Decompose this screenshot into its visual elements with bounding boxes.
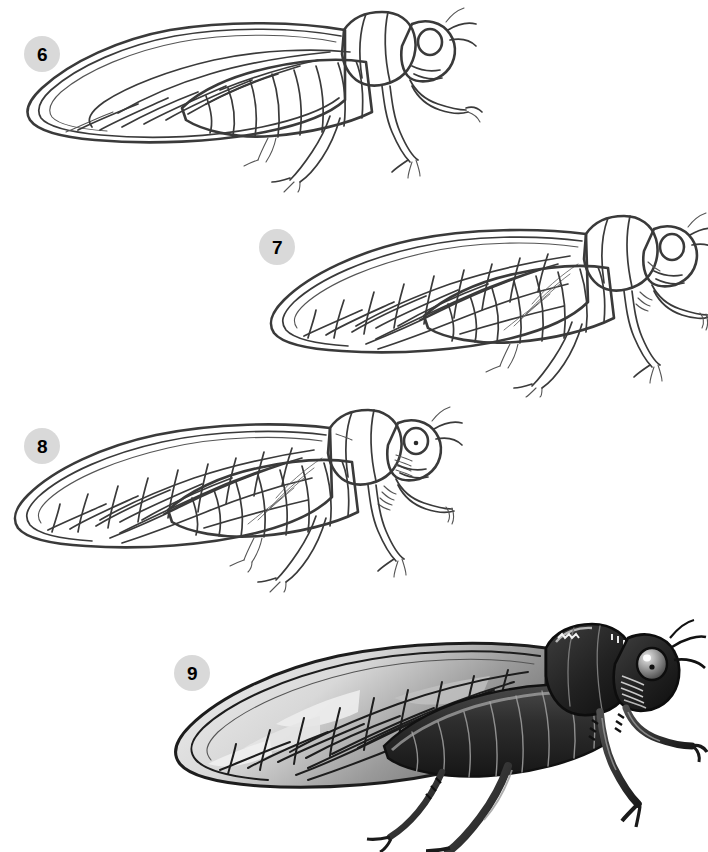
- head-group-8: [387, 407, 462, 480]
- eye-7: [660, 234, 684, 260]
- cicada-figure-6: [0, 0, 460, 200]
- antenna-upper-8: [434, 422, 462, 429]
- hind-leg-9: [448, 766, 508, 852]
- cicada-figure-9: [160, 620, 708, 852]
- eye-6: [418, 29, 442, 55]
- step-panel-7: 7: [248, 208, 708, 398]
- antenna-upper-6: [448, 23, 476, 30]
- antenna-upper-7: [690, 228, 708, 235]
- abdomen-group-6: [182, 60, 372, 137]
- thorax-group-6: [342, 12, 416, 86]
- thorax-group-7: [584, 216, 658, 291]
- cicada-figure-7: [248, 208, 708, 398]
- eye-highlight-9: [643, 655, 651, 662]
- cicada-drawing-9: [160, 620, 708, 852]
- tutorial-page: 6: [0, 0, 708, 852]
- antenna-upper-9: [672, 636, 706, 647]
- head-group-7: [643, 213, 708, 286]
- cicada-drawing-8: [0, 406, 470, 601]
- cicada-drawing-7: [248, 208, 708, 398]
- antenna-lower-7: [692, 244, 708, 251]
- eye-pupil-8: [414, 441, 419, 446]
- cicada-drawing-6: [0, 0, 460, 200]
- head-group-9: [614, 620, 706, 711]
- cicada-figure-8: [0, 406, 470, 601]
- step-panel-6: 6: [0, 0, 460, 200]
- eye-pupil-9: [649, 664, 654, 669]
- step-panel-9: 9: [160, 620, 708, 852]
- step-panel-8: 8: [0, 406, 470, 601]
- head-group-6: [401, 8, 476, 81]
- eye-9: [637, 648, 667, 680]
- thorax-group-8: [328, 410, 402, 485]
